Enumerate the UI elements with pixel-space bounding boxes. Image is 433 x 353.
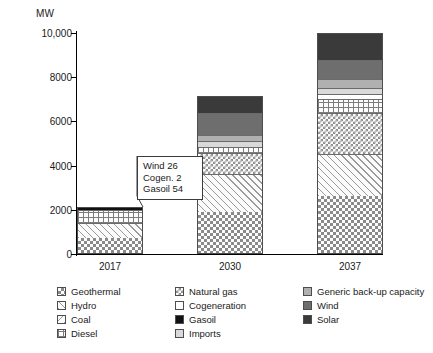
- legend-label: Natural gas: [189, 286, 238, 297]
- legend-item-cogeneration[interactable]: Cogeneration: [175, 300, 303, 311]
- legend-item-diesel[interactable]: Diesel: [57, 328, 175, 339]
- legend-item-generic-back-up-capacity[interactable]: Generic back-up capacity: [303, 286, 427, 297]
- bar-segment-hydro[interactable]: [318, 154, 382, 196]
- legend-swatch-icon: [175, 315, 184, 324]
- bar-segment-natural-gas[interactable]: [318, 113, 382, 155]
- legend-label: Wind: [317, 300, 339, 311]
- callout-line-gasoil: Gasoil 54: [143, 183, 198, 195]
- bar-segment-diesel[interactable]: [78, 210, 142, 223]
- bar-segment-generic-back-up-capacity[interactable]: [318, 79, 382, 88]
- x-axis-line: [76, 254, 383, 255]
- legend-column-2: Natural gasCogenerationGasoilImports: [175, 286, 303, 339]
- y-axis-tick-label: 2000: [50, 204, 72, 215]
- bar-segment-geothermal[interactable]: [198, 212, 262, 253]
- legend-swatch-icon: [57, 301, 66, 310]
- legend-item-hydro[interactable]: Hydro: [57, 300, 175, 311]
- legend-label: Hydro: [71, 300, 96, 311]
- bar-segment-hydro[interactable]: [78, 223, 142, 238]
- x-axis-label-2017: 2017: [65, 261, 155, 272]
- capacity-stacked-bar-chart: MW 10,00080006000400020000 201720302037 …: [0, 0, 433, 353]
- legend-swatch-icon: [175, 329, 184, 338]
- legend-label: Gasoil: [189, 314, 216, 325]
- legend-label: Cogeneration: [189, 300, 246, 311]
- legend-swatch-icon: [57, 329, 66, 338]
- bar-2017[interactable]: [77, 207, 143, 254]
- legend-label: Solar: [317, 314, 339, 325]
- y-axis-tick-label: 4000: [50, 160, 72, 171]
- y-axis-tick-label: 6000: [50, 116, 72, 127]
- legend-item-wind[interactable]: Wind: [303, 300, 427, 311]
- bar-2037[interactable]: [317, 33, 383, 254]
- x-axis-label-2037: 2037: [305, 261, 395, 272]
- legend-column-1: GeothermalHydroCoalDiesel: [57, 286, 175, 339]
- bar-segment-geothermal[interactable]: [318, 196, 382, 253]
- legend-swatch-icon: [57, 315, 66, 324]
- bar-segment-natural-gas[interactable]: [198, 153, 262, 175]
- callout-box-2017: Wind 26 Cogen. 2 Gasoil 54: [137, 156, 203, 200]
- legend-swatch-icon: [303, 287, 312, 296]
- x-axis-label-2030: 2030: [185, 261, 275, 272]
- legend-item-gasoil[interactable]: Gasoil: [175, 314, 303, 325]
- legend-item-coal[interactable]: Coal: [57, 314, 175, 325]
- legend-label: Diesel: [71, 328, 97, 339]
- legend-label: Coal: [71, 314, 91, 325]
- legend-swatch-icon: [303, 301, 312, 310]
- legend-item-solar[interactable]: Solar: [303, 314, 427, 325]
- callout-line-cogen: Cogen. 2: [143, 172, 198, 184]
- legend-label: Geothermal: [71, 286, 121, 297]
- callout-line-wind: Wind 26: [143, 160, 198, 172]
- legend-item-natural-gas[interactable]: Natural gas: [175, 286, 303, 297]
- y-axis-tick-label: 10,000: [41, 28, 72, 39]
- bar-segment-solar[interactable]: [318, 34, 382, 60]
- bar-segment-hydro[interactable]: [198, 174, 262, 211]
- legend-swatch-icon: [175, 287, 184, 296]
- bar-segment-wind[interactable]: [318, 60, 382, 80]
- legend-label: Generic back-up capacity: [317, 286, 424, 297]
- bar-segment-diesel[interactable]: [318, 99, 382, 113]
- bar-2030[interactable]: [197, 96, 263, 254]
- legend-swatch-icon: [303, 315, 312, 324]
- bar-segment-solar[interactable]: [198, 97, 262, 113]
- legend-swatch-icon: [175, 301, 184, 310]
- bar-segment-wind[interactable]: [198, 113, 262, 135]
- legend-column-3: Generic back-up capacityWindSolar: [303, 286, 427, 339]
- legend-swatch-icon: [57, 287, 66, 296]
- legend-item-imports[interactable]: Imports: [175, 328, 303, 339]
- y-axis-tick-label: 8000: [50, 72, 72, 83]
- chart-legend: GeothermalHydroCoalDieselNatural gasCoge…: [57, 286, 427, 339]
- bar-segment-geothermal[interactable]: [78, 238, 142, 253]
- legend-label: Imports: [189, 328, 221, 339]
- legend-item-geothermal[interactable]: Geothermal: [57, 286, 175, 297]
